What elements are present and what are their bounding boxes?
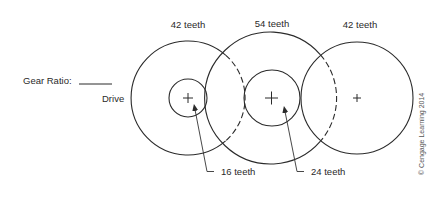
label-24-teeth: 24 teeth <box>311 166 345 177</box>
label-middle-gear-teeth: 54 teeth <box>255 18 289 29</box>
center-mark-middle <box>265 92 278 105</box>
label-right-gear-teeth: 42 teeth <box>343 19 377 30</box>
gear-ratio-label: Gear Ratio: <box>23 75 72 86</box>
leader-arrow-16-teeth <box>195 107 215 172</box>
center-mark-right <box>353 94 361 102</box>
copyright-notice: © Cengage Learning 2014 <box>418 93 426 175</box>
label-left-gear-teeth: 42 teeth <box>171 19 205 30</box>
label-16-teeth: 16 teeth <box>221 166 255 177</box>
gear-train-diagram: 42 teeth 54 teeth 42 teeth 16 teeth 24 t… <box>0 0 447 216</box>
drive-label: Drive <box>102 93 124 104</box>
center-mark-left <box>183 93 193 103</box>
